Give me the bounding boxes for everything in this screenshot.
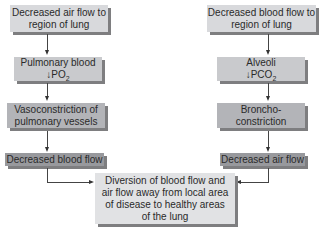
left-box1-line2: region of lung (29, 19, 90, 31)
arrow-left-icon (236, 180, 241, 184)
left-box-decreased-air-flow: Decreased air flow to region of lung (10, 5, 108, 32)
left-box3-line1: Vasoconstriction of (14, 104, 98, 116)
right-box-bronchoconstriction: Broncho- constriction (217, 103, 305, 128)
right-box2-line1: Alveoli (246, 57, 275, 69)
connector (47, 34, 48, 51)
right-box-decreased-air-flow: Decreased air flow (220, 153, 305, 166)
arrow-down-icon (266, 147, 270, 152)
connector (47, 168, 48, 183)
left-box1-line1: Decreased air flow to (12, 7, 106, 19)
left-box-vasoconstriction: Vasoconstriction of pulmonary vessels (7, 103, 105, 128)
arrow-down-icon (45, 50, 49, 55)
connector (268, 34, 269, 51)
result-line3: of disease to healthy areas (105, 199, 225, 211)
connector (47, 131, 48, 148)
result-box-diversion: Diversion of blood flow and air flow awa… (95, 173, 235, 224)
right-box-alveoli: Alveoli ↓PCO2 (217, 57, 305, 81)
right-box1-line2: region of lung (231, 19, 292, 31)
left-box2-line2: ↓PO2 (46, 69, 69, 81)
right-box-decreased-blood-flow-to-region: Decreased blood flow to region of lung (207, 5, 316, 32)
arrow-down-icon (266, 50, 270, 55)
right-box2-line2: ↓PCO2 (246, 69, 277, 81)
left-box-pulmonary-blood: Pulmonary blood ↓PO2 (14, 57, 102, 81)
left-box3-line2: pulmonary vessels (15, 116, 98, 128)
connector (268, 83, 269, 97)
right-box1-line1: Decreased blood flow to (208, 7, 315, 19)
connector (268, 168, 269, 183)
connector (47, 182, 90, 183)
arrow-down-icon (266, 96, 270, 101)
left-box-decreased-blood-flow: Decreased blood flow (5, 153, 104, 166)
right-box4-text: Decreased air flow (221, 154, 304, 166)
right-box3-line2: constriction (236, 116, 287, 128)
result-line2: air flow away from local area (102, 187, 229, 199)
connector (268, 131, 269, 148)
right-box3-line1: Broncho- (241, 104, 282, 116)
left-box2-line1: Pulmonary blood (20, 57, 95, 69)
connector (240, 182, 269, 183)
result-line4: of the lung (142, 211, 189, 223)
result-line1: Diversion of blood flow and (105, 175, 225, 187)
left-box4-text: Decreased blood flow (6, 154, 102, 166)
arrow-right-icon (89, 180, 94, 184)
arrow-down-icon (45, 96, 49, 101)
arrow-down-icon (45, 147, 49, 152)
connector (47, 83, 48, 97)
